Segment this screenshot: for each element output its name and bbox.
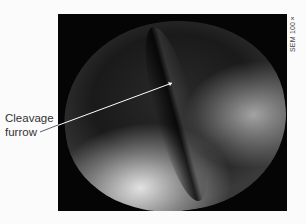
label-line-2: furrow [5, 125, 54, 139]
magnification-label: SEM 100× [289, 12, 303, 52]
cleavage-furrow-label: Cleavage furrow [5, 111, 54, 139]
label-line-1: Cleavage [5, 111, 54, 125]
